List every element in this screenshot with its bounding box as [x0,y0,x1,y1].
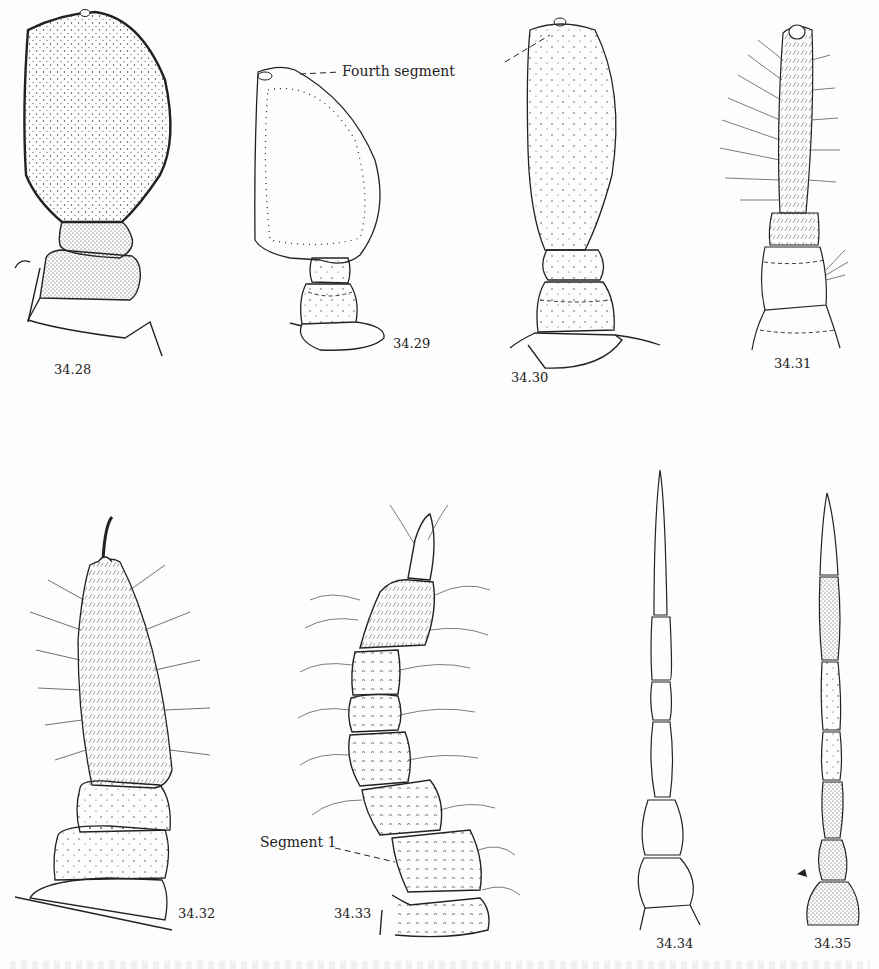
leader-segment-1 [335,848,395,862]
callout-segment-1: Segment 1 [260,834,336,850]
figure-label-34-35: 34.35 [814,936,851,951]
figure-34-31 [720,25,848,350]
figure-34-34 [638,470,700,930]
figure-34-28 [15,10,170,357]
figure-label-34-30: 34.30 [511,370,548,385]
figure-label-34-31: 34.31 [774,356,811,371]
figure-label-34-29: 34.29 [393,336,430,351]
figure-34-30 [510,18,660,368]
antenna-drawings [0,0,879,969]
figure-34-33 [298,505,520,937]
figure-label-34-33: 34.33 [334,906,371,921]
figure-plate: Fourth segment Segment 1 34.28 34.29 34.… [0,0,879,969]
callout-fourth-segment: Fourth segment [342,63,455,79]
figure-label-34-34: 34.34 [656,936,693,951]
figure-label-34-28: 34.28 [54,362,91,377]
cropped-bottom-text [0,955,879,969]
figure-label-34-32: 34.32 [178,906,215,921]
figure-34-29 [255,67,384,350]
figure-34-35 [797,493,859,925]
figure-34-32 [15,517,210,930]
